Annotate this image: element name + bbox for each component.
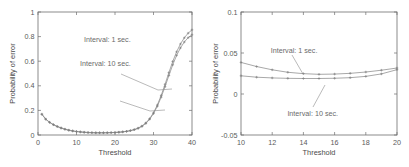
y-tick-label: 0.8 — [25, 32, 35, 41]
data-series-line — [42, 35, 192, 133]
x-tick-label: 0 — [36, 138, 40, 147]
figure-container: 01020304000.20.40.60.81ThresholdProbabil… — [0, 0, 409, 167]
y-tick-label: 0 — [31, 131, 35, 140]
series-annotation-label: Interval: 1 sec. — [84, 35, 131, 44]
x-tick-label: 16 — [331, 138, 339, 147]
y-tick-label: 1 — [31, 8, 35, 17]
x-tick-label: 14 — [299, 138, 307, 147]
y-tick-label: 0.05 — [224, 49, 238, 58]
chart-panel-right: 101214161820-0.0500.050.1ThresholdProbab… — [205, 0, 409, 167]
series-annotation-label: Interval: 1 sec. — [271, 46, 318, 55]
x-tick-label: 20 — [111, 138, 119, 147]
y-tick-label: 0 — [234, 90, 238, 99]
right-plot-svg: 101214161820-0.0500.050.1ThresholdProbab… — [205, 0, 409, 167]
x-tick-label: 12 — [268, 138, 276, 147]
y-tick-label: 0.4 — [25, 81, 35, 90]
series-annotation-label: Interval: 10 sec. — [287, 109, 338, 118]
x-tick-label: 40 — [188, 138, 196, 147]
data-series-line — [241, 62, 397, 74]
left-plot-svg: 01020304000.20.40.60.81ThresholdProbabil… — [0, 0, 205, 167]
x-axis-title: Threshold — [303, 148, 336, 157]
y-tick-label: 0.2 — [25, 106, 35, 115]
x-tick-label: 18 — [362, 138, 370, 147]
annotation-leader-line — [292, 55, 303, 74]
y-axis-title: Probability of error — [8, 43, 17, 104]
x-tick-label: 10 — [237, 138, 245, 147]
y-axis-title: Probability of error — [211, 43, 220, 104]
y-tick-label: 0.1 — [228, 8, 238, 17]
x-axis-title: Threshold — [99, 148, 132, 157]
x-tick-label: 10 — [73, 138, 81, 147]
chart-panel-left: 01020304000.20.40.60.81ThresholdProbabil… — [0, 0, 205, 167]
data-series-line — [42, 30, 192, 133]
annotation-leader-line — [313, 85, 325, 107]
x-tick-label: 20 — [393, 138, 401, 147]
y-tick-label: 0.6 — [25, 57, 35, 66]
y-tick-label: -0.05 — [221, 131, 237, 140]
series-annotation-label: Interval: 10 sec. — [80, 59, 131, 68]
x-tick-label: 30 — [150, 138, 158, 147]
